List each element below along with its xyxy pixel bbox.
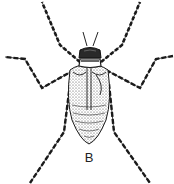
figure-label: B (82, 151, 96, 165)
antennae (83, 32, 98, 46)
head (79, 48, 101, 59)
abdomen (68, 65, 109, 144)
